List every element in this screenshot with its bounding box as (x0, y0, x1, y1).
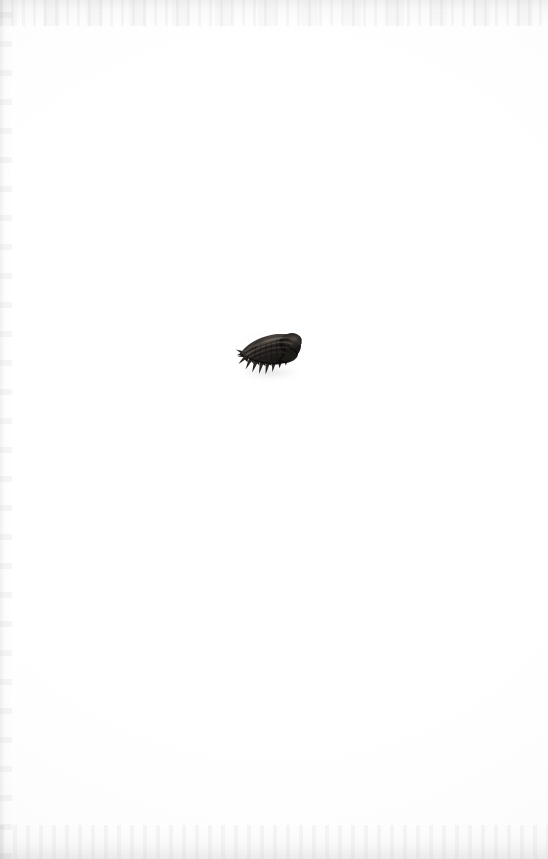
scan-artifact-top-edge (0, 0, 548, 26)
spiny-gastropod-shell-icon (232, 326, 308, 384)
specimen-plate (0, 0, 548, 859)
specimen-figure (232, 326, 308, 384)
scan-artifact-left-edge (0, 0, 12, 859)
paper-background (0, 0, 548, 859)
scan-artifact-bottom-edge (0, 825, 548, 859)
